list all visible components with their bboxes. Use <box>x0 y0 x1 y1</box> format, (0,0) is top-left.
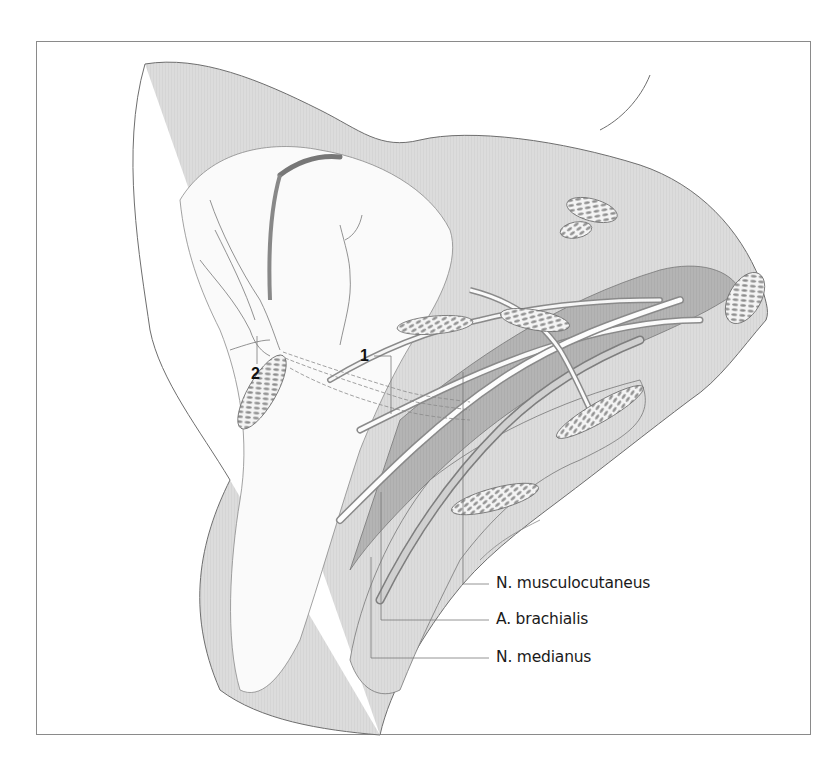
label-a-brachialis: A. brachialis <box>496 610 588 628</box>
marker-1: 1 <box>360 347 369 365</box>
marker-2: 2 <box>251 365 260 383</box>
label-n-musculocutaneus: N. musculocutaneus <box>496 574 650 592</box>
label-n-medianus: N. medianus <box>496 648 591 666</box>
anatomy-illustration <box>0 0 830 758</box>
